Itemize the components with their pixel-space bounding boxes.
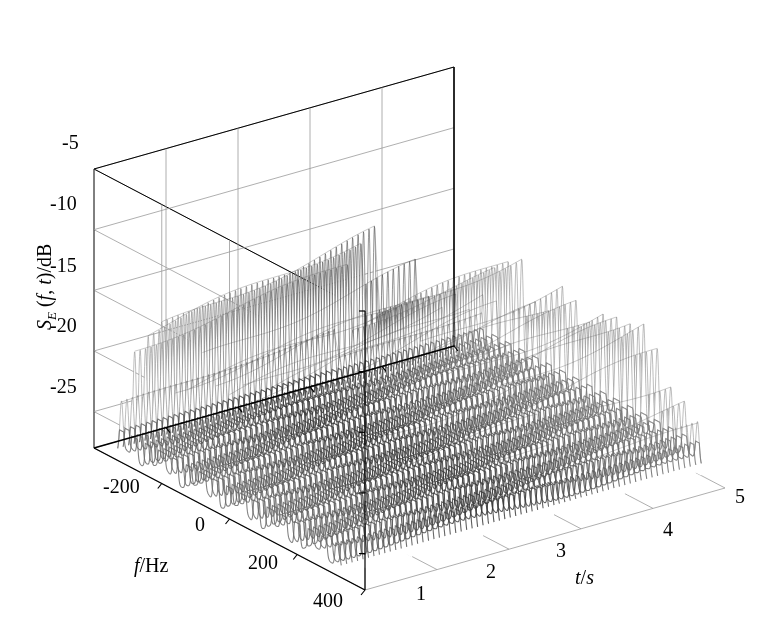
z-tick-label-2: -10 [50, 193, 77, 213]
x-tick-label-3: 200 [248, 552, 278, 572]
surface-plot-canvas [0, 0, 766, 638]
x-tick-label-4: 400 [313, 590, 343, 610]
z-tick-label-5: -25 [50, 376, 77, 396]
y-tick-label-1: 1 [416, 583, 426, 603]
x-tick-label-2: 0 [195, 514, 205, 534]
z-tick-label-4: -20 [50, 315, 77, 335]
x-tick-label-1: -200 [103, 476, 140, 496]
y-tick-label-2: 2 [486, 561, 496, 581]
y-tick-label-5: 5 [735, 486, 745, 506]
y-tick-label-4: 4 [663, 519, 673, 539]
z-tick-label-3: -15 [50, 255, 77, 275]
y-tick-label-3: 3 [556, 540, 566, 560]
y-axis-label: t/s [575, 567, 594, 587]
figure-container: SE (f, t)/dB -5 -10 -15 -20 -25 -200 0 2… [0, 0, 766, 638]
x-axis-label: f/Hz [134, 555, 168, 575]
z-tick-label-1: -5 [62, 132, 79, 152]
